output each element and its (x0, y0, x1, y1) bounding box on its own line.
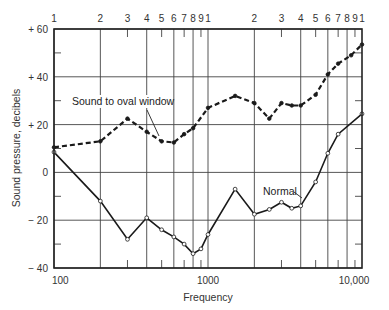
normal-point (252, 212, 256, 216)
oval-window-point (99, 140, 103, 144)
top-axis-label: 5 (313, 13, 319, 24)
y-tick-label: − 40 (28, 263, 48, 274)
top-axis-label: 7 (181, 13, 187, 24)
top-axis-label: 6 (325, 13, 331, 24)
normal-point (233, 187, 237, 191)
oval-window-point (126, 117, 130, 121)
oval-window-point (191, 126, 195, 130)
normal-point (206, 233, 210, 237)
top-axis-label: 3 (279, 13, 285, 24)
chart: 1234567891234567891+ 60+ 40+ 200− 20− 40… (0, 0, 389, 310)
top-axis-label: 4 (144, 13, 150, 24)
x-tick-label: 10,000 (339, 275, 370, 286)
x-tick-label: 100 (52, 275, 69, 286)
oval-window-point (206, 106, 210, 110)
oval-window-point (336, 62, 340, 66)
normal-point (314, 180, 318, 184)
normal-point (290, 206, 294, 210)
top-axis-label: 1 (359, 13, 365, 24)
oval-window-point (314, 93, 318, 97)
y-axis-title: Sound pressure, decibels (10, 89, 22, 208)
normal-point (280, 200, 284, 204)
oval-window-point (172, 141, 176, 145)
normal-point (182, 242, 186, 246)
normal-point (199, 247, 203, 251)
oval-window-point (280, 101, 284, 105)
normal-point (98, 199, 102, 203)
top-axis-label: 3 (125, 13, 131, 24)
top-axis-label: 5 (159, 13, 165, 24)
top-axis-label: 2 (98, 13, 104, 24)
oval-window-point (349, 53, 353, 57)
oval-window-point (299, 104, 303, 108)
oval-window-point (267, 117, 271, 121)
top-axis-label: 8 (344, 13, 350, 24)
top-axis-label: 2 (252, 13, 258, 24)
normal-point (326, 151, 330, 155)
top-axis-label: 4 (298, 13, 304, 24)
x-tick-label: 1000 (197, 275, 220, 286)
top-axis-label: 8 (190, 13, 196, 24)
oval-window-point (160, 140, 164, 144)
oval-window-point (233, 94, 237, 98)
y-tick-label: + 40 (28, 72, 48, 83)
y-tick-label: + 20 (28, 120, 48, 131)
top-axis-label: 7 (335, 13, 341, 24)
top-axis-label: 9 (352, 13, 358, 24)
top-axis-label: 1 (51, 13, 57, 24)
normal-point (126, 237, 130, 241)
x-axis-title: Frequency (183, 291, 233, 303)
oval-window-point (326, 73, 330, 77)
normal-point (160, 228, 164, 232)
labels-layer: 1234567891234567891+ 60+ 40+ 200− 20− 40… (10, 13, 370, 303)
oval-window-point (290, 104, 294, 108)
y-tick-label: + 60 (28, 24, 48, 35)
normal-point (299, 204, 303, 208)
normal-point (172, 235, 176, 239)
normal-point (267, 208, 271, 212)
oval-window-point (253, 101, 257, 105)
y-tick-label: − 20 (28, 215, 48, 226)
top-axis-label: 9 (198, 13, 204, 24)
top-axis-label: 6 (171, 13, 177, 24)
grid (54, 29, 362, 268)
top-axis-label: 1 (205, 13, 211, 24)
annotation-normal: Normal (263, 185, 297, 197)
normal-point (145, 216, 149, 220)
oval-window-point (145, 130, 149, 134)
annotation-oval-window: Sound to oval window (72, 95, 175, 107)
y-tick-label: 0 (42, 167, 48, 178)
normal-point (336, 132, 340, 136)
normal-point (191, 252, 195, 256)
oval-window-point (182, 132, 186, 136)
